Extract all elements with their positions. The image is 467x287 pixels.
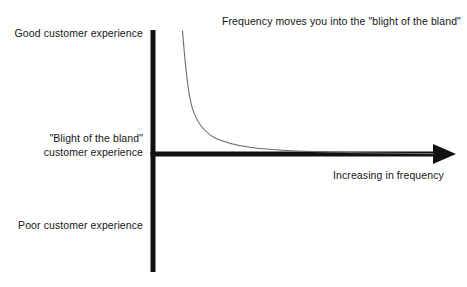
- x-axis-label-frequency: Increasing in frequency: [333, 169, 444, 183]
- x-axis-line: [151, 152, 438, 157]
- y-axis-line: [151, 30, 156, 272]
- y-axis-label-blight: "Blight of the bland" customer experienc…: [44, 131, 143, 159]
- decay-curve: [183, 31, 434, 154]
- y-axis-label-blight-line1: "Blight of the bland": [44, 131, 143, 145]
- y-axis-label-blight-line2: customer experience: [44, 145, 143, 159]
- x-axis-arrowhead-icon: [433, 144, 456, 164]
- y-axis-label-poor: Poor customer experience: [18, 219, 143, 233]
- diagram-canvas: Frequency moves you into the "blight of …: [0, 0, 467, 287]
- y-axis-label-good: Good customer experience: [15, 27, 143, 41]
- chart-title: Frequency moves you into the "blight of …: [222, 15, 461, 29]
